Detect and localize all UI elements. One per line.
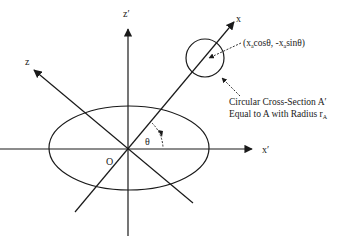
x-axis <box>75 22 234 212</box>
z-axis-label: z <box>25 57 29 67</box>
caption-line-1: Circular Cross-Section A′ <box>229 96 327 108</box>
caption-line-2: Equal to A with Radius rA <box>229 108 327 123</box>
cross-section-caption: Circular Cross-Section A′ Equal to A wit… <box>229 96 327 123</box>
caption-line-2-sub: A <box>323 114 327 120</box>
caption-leader-line <box>222 78 240 96</box>
theta-label: θ <box>145 137 150 147</box>
point-label-open: (x <box>243 38 251 48</box>
cross-section-circle <box>186 39 224 77</box>
rotated-axes-diagram: z′ z x x′ O θ (xacosθ, -xasinθ) Circular… <box>0 0 339 249</box>
caption-line-2-text: Equal to A with Radius r <box>229 109 323 119</box>
z-axis <box>34 70 193 203</box>
x-axis-label: x <box>236 14 241 24</box>
z-prime-axis-label: z′ <box>123 9 130 19</box>
point-label-close: sinθ) <box>286 38 305 48</box>
origin-label: O <box>106 157 113 167</box>
x-prime-axis-label: x′ <box>262 145 269 155</box>
point-coordinate-label: (xacosθ, -xasinθ) <box>243 37 305 52</box>
point-label-mid: cosθ, -x <box>254 38 284 48</box>
